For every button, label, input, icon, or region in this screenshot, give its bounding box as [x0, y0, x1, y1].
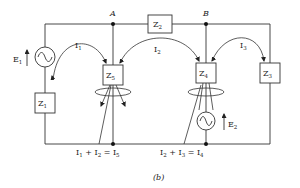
equation-i5: I1 + I2 = I5	[76, 148, 120, 158]
current-i1: I1	[52, 41, 106, 80]
equation-i4: I2 + I3 = I4	[160, 148, 204, 158]
node-b: B	[202, 9, 209, 26]
svg-text:I2: I2	[154, 45, 161, 55]
node-bottom-right	[204, 142, 208, 146]
svg-text:E2: E2	[228, 120, 237, 130]
svg-text:B: B	[202, 9, 209, 18]
current-i2: I2	[120, 38, 199, 63]
impedance-z1: Z1	[35, 93, 55, 113]
svg-text:E1: E1	[13, 55, 22, 65]
current-i3: I3	[212, 38, 264, 61]
node-a: A	[109, 9, 116, 26]
node-bottom-left	[111, 142, 115, 146]
impedance-z3: Z3	[260, 63, 280, 83]
impedance-z4: Z4	[196, 63, 216, 83]
circuit-diagram: A B Z2 Z1 Z5 Z4 Z3 E1 E2	[0, 0, 300, 188]
svg-text:A: A	[109, 9, 116, 18]
ac-source-e1: E1	[13, 47, 55, 67]
ac-source-e2: E2	[197, 112, 237, 130]
impedance-z2: Z2	[148, 15, 172, 33]
svg-text:I1: I1	[75, 41, 82, 51]
figure-caption: (b)	[153, 173, 164, 182]
impedance-z5: Z5	[103, 65, 123, 85]
svg-text:I3: I3	[240, 41, 247, 51]
